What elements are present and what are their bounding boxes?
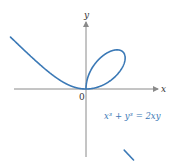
folium-curve [11,37,134,160]
origin-label: 0 [79,92,85,102]
x-axis-label: x [161,84,166,94]
y-axis-label: y [83,10,90,20]
folium-diagram: x y 0 x³ + y³ = 2xy [0,0,172,168]
equation-label: x³ + y³ = 2xy [104,111,161,121]
